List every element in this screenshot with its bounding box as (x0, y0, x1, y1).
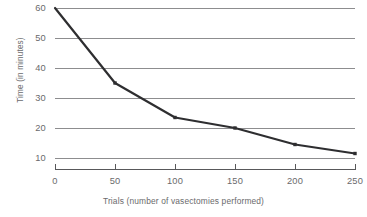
x-axis-tick-150 (235, 164, 236, 170)
line-chart: Time (in minutes) 102030405060 050100150… (0, 0, 367, 217)
y-axis-tick-60: 60 (26, 3, 46, 13)
x-axis-tick-100 (175, 164, 176, 170)
x-axis-tick-50 (115, 164, 116, 170)
x-axis-tick-label: 50 (95, 176, 135, 186)
data-point-marker (113, 81, 116, 84)
data-series-line (55, 8, 355, 158)
y-axis-tick-50: 50 (26, 33, 46, 43)
x-axis-tick-200 (295, 164, 296, 170)
y-axis-tick-label: 60 (26, 3, 46, 13)
y-axis-tick-10: 10 (26, 153, 46, 163)
data-point-marker (293, 143, 296, 146)
x-axis-tick-0 (55, 164, 56, 170)
y-axis-tick-label: 50 (26, 33, 46, 43)
y-axis-tick-label: 20 (26, 123, 46, 133)
x-axis-tick-label: 150 (215, 176, 255, 186)
x-axis-tick-label: 0 (35, 176, 75, 186)
gridline-10 (55, 158, 355, 159)
y-axis-tick-label: 10 (26, 153, 46, 163)
y-axis-tick-40: 40 (26, 63, 46, 73)
x-axis-tick-250 (355, 164, 356, 170)
data-point-marker (233, 126, 236, 129)
data-point-marker (353, 152, 356, 155)
x-axis-tick-label: 200 (275, 176, 315, 186)
x-axis-tick-label: 250 (335, 176, 367, 186)
y-axis-tick-20: 20 (26, 123, 46, 133)
x-axis-tick-label: 100 (155, 176, 195, 186)
series-polyline (55, 8, 355, 154)
plot-area (55, 8, 355, 158)
data-point-marker (173, 116, 176, 119)
y-axis-tick-label: 40 (26, 63, 46, 73)
y-axis-tick-label: 30 (26, 93, 46, 103)
x-axis-title: Trials (number of vasectomies performed) (0, 196, 367, 206)
x-axis-line (55, 169, 355, 170)
y-axis-tick-30: 30 (26, 93, 46, 103)
